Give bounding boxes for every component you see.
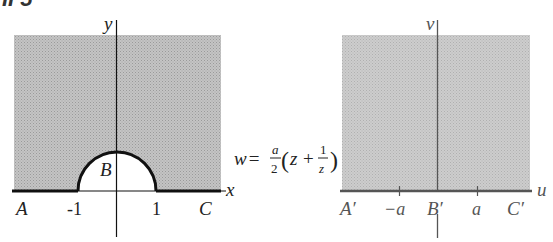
frac-a-den: 2 bbox=[271, 161, 278, 176]
tick-label-neg-1: -1 bbox=[67, 199, 82, 219]
x-axis-label: x bbox=[225, 179, 235, 200]
figure: II 5 y x B A -1 1 C w= a 2 ( z + 1 z ) bbox=[0, 0, 553, 242]
formula-plus: + bbox=[303, 148, 314, 169]
v-axis-label: v bbox=[426, 13, 435, 34]
tick-label-neg-a: −a bbox=[384, 199, 405, 219]
tick-label-a: a bbox=[472, 199, 481, 219]
point-label-c-prime: C′ bbox=[507, 198, 525, 219]
region-label-b: B bbox=[100, 159, 112, 180]
shaded-region-w bbox=[342, 35, 530, 191]
formula-w: w bbox=[234, 148, 247, 169]
frac-1-den: z bbox=[318, 161, 324, 176]
formula-z: z bbox=[289, 148, 298, 169]
u-axis-label: u bbox=[537, 179, 547, 200]
point-label-a-prime: A′ bbox=[338, 198, 357, 219]
right-plot: v u A′ −a B′ a C′ bbox=[338, 13, 547, 238]
frac-a-num: a bbox=[272, 142, 279, 157]
open-paren: ( bbox=[281, 147, 289, 173]
close-paren: ) bbox=[330, 147, 338, 173]
tick-label-1: 1 bbox=[152, 199, 161, 219]
mapping-formula: w= a 2 ( z + 1 z ) bbox=[234, 142, 338, 176]
svg-text:w=: w= bbox=[234, 148, 259, 169]
point-label-a: A bbox=[14, 198, 28, 219]
point-label-b-prime: B′ bbox=[427, 198, 444, 219]
y-axis-label: y bbox=[102, 13, 113, 34]
heading-fragment: II 5 bbox=[2, 0, 33, 11]
frac-1-num: 1 bbox=[320, 142, 327, 157]
point-label-c: C bbox=[199, 198, 212, 219]
left-plot: y x B A -1 1 C bbox=[12, 13, 235, 237]
